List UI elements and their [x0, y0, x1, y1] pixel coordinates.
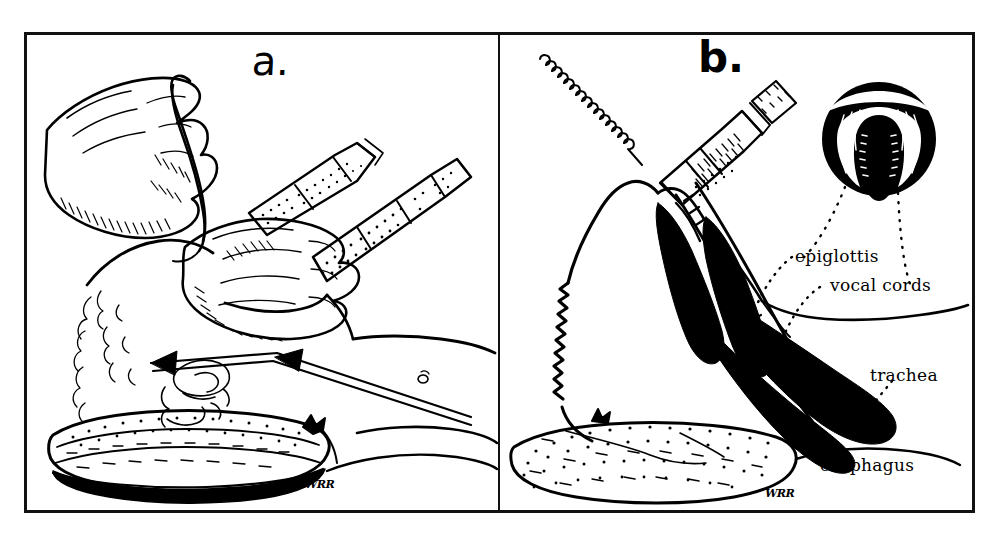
scan-bottom-text-fragment — [0, 533, 997, 547]
label-esophagus: esophagus — [820, 455, 914, 475]
panel-a-artwork — [27, 35, 497, 510]
panel-b-signature: WRR — [764, 487, 796, 500]
panel-b: b. — [498, 32, 975, 513]
label-epiglottis: epiglottis — [795, 246, 879, 266]
log-under-shoulders-b — [511, 423, 797, 503]
panel-a: a. — [24, 32, 500, 513]
laryngoscope-handle — [249, 139, 383, 235]
scan-top-text-fragment — [0, 0, 997, 3]
label-trachea: trachea — [870, 365, 938, 385]
endotracheal-tube — [313, 159, 471, 281]
et-tube-connector — [540, 55, 796, 205]
vocal-cords-inset — [822, 82, 936, 201]
figure-page: a. — [0, 0, 997, 548]
panel-a-signature: WRR — [304, 478, 336, 491]
label-vocal-cords: vocal cords — [830, 275, 931, 295]
panel-b-artwork — [500, 35, 970, 510]
